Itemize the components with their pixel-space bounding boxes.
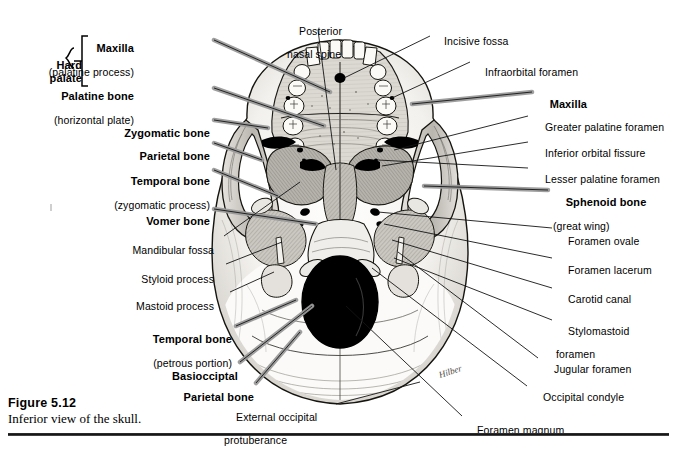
- foramen-magnum-opening: [302, 256, 378, 348]
- figure-caption: Figure 5.12 Inferior view of the skull.: [8, 396, 308, 427]
- figure-description: Inferior view of the skull.: [8, 411, 308, 427]
- label-mastoid-process: Mastoid process: [14, 289, 214, 324]
- greater-palatine-foramen-opening: [297, 148, 303, 153]
- mastoid-process-left: [261, 265, 292, 297]
- label-carotid-canal: Carotid canal: [556, 282, 631, 317]
- label-infraorbital-foramen: Infraorbital foramen: [473, 55, 578, 90]
- label-occipital-condyle: Occipital condyle: [531, 380, 624, 415]
- figure-inferior-skull: Hilber: [0, 0, 680, 458]
- label-incisive-fossa: Incisive fossa: [432, 24, 509, 59]
- lesser-palatine-foramen-opening: [302, 158, 306, 161]
- label-posterior-nasal-spine: Posterior nasal spine: [287, 14, 342, 85]
- page-divider-rule: [8, 433, 669, 436]
- scan-artifact-speck: [50, 204, 52, 211]
- artist-signature: Hilber: [437, 363, 464, 380]
- label-foramen-magnum: Foramen magnum: [465, 413, 564, 448]
- figure-number: Figure 5.12: [8, 396, 308, 410]
